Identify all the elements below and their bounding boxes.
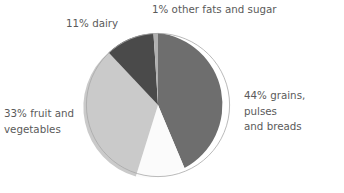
pie-label-dairy: 11% dairy (66, 16, 118, 32)
pie-label-other-fats-and-sugar: 1% other fats and sugar (152, 2, 277, 18)
pie-chart-figure: 1% other fats and sugar 11% dairy 44% gr… (0, 0, 344, 193)
pie-label-grains-pulses-and-breads: 44% grains, pulses and breads (244, 88, 340, 135)
pie-label-fruit-and-vegetables: 33% fruit and vegetables (4, 106, 90, 137)
